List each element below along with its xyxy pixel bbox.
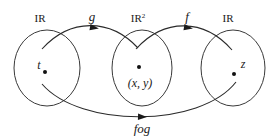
- set-ellipse-domain: [14, 30, 80, 106]
- element-label-z: z: [240, 57, 246, 71]
- element-dot-xy: [137, 65, 141, 69]
- set-label-middle-superscript: 2: [142, 12, 146, 20]
- element-label-xy: (x, y): [128, 76, 153, 90]
- element-dot-t: [43, 70, 47, 74]
- set-label-middle: IR2: [131, 12, 146, 24]
- set-ellipse-codomain: [201, 30, 265, 106]
- set-label-middle-base: IR: [131, 12, 143, 24]
- diagram-canvas: IR IR2 IR g f fog t (x, y) z: [0, 0, 274, 139]
- set-label-codomain: IR: [223, 12, 235, 24]
- set-label-domain: IR: [35, 12, 47, 24]
- map-label-f: f: [185, 9, 191, 24]
- map-label-fog: fog: [134, 121, 151, 136]
- element-dot-z: [232, 72, 236, 76]
- set-ellipse-middle: [112, 30, 172, 106]
- arrow-head-f: [183, 24, 193, 32]
- map-label-g: g: [89, 9, 96, 24]
- arrow-head-fog: [138, 114, 147, 121]
- element-label-t: t: [37, 58, 41, 72]
- function-composition-diagram: IR IR2 IR g f fog t (x, y) z: [0, 0, 274, 139]
